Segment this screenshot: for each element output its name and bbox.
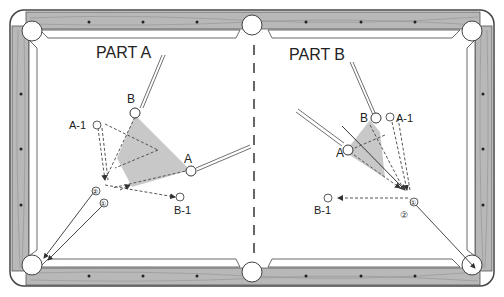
contact-2: ② [92,188,98,195]
table-svg: PART A B A A-1 B-1 ② ① PART B B A A-1 [0,0,504,297]
ball-a-label: A [336,146,344,160]
target-a1-label: A-1 [69,119,86,131]
ball-b-label: B [127,92,135,106]
part-b-title: PART B [289,46,345,63]
contact-1: ① [410,199,416,206]
ball-a-label: A [184,152,192,166]
target-b1-label: B-1 [174,204,191,216]
ball-b-label: B [360,111,368,125]
contact-1: ① [100,200,106,207]
contact-2: ② [400,210,408,220]
table-rails [10,10,494,286]
part-a-title: PART A [96,44,151,61]
target-a1-label: A-1 [396,112,413,124]
billiards-diagram: PART A B A A-1 B-1 ② ① PART B B A A-1 [0,0,504,297]
target-b1-label: B-1 [314,204,331,216]
